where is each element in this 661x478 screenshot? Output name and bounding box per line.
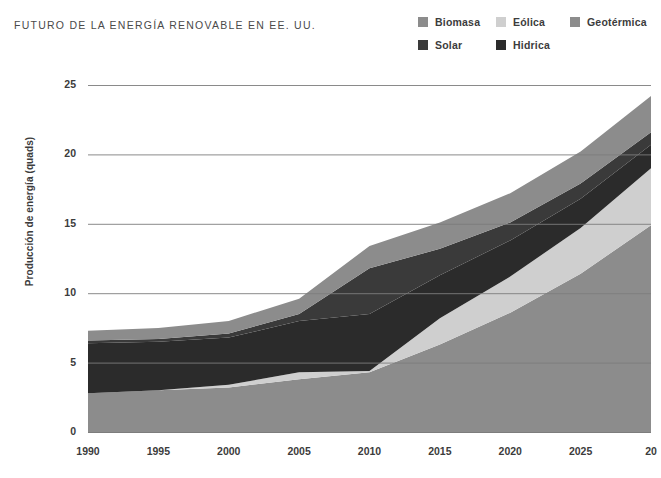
x-tick-label-1995: 1995 bbox=[134, 445, 182, 457]
y-tick-label-25: 25 bbox=[42, 78, 76, 90]
y-tick-label-10: 10 bbox=[42, 286, 76, 298]
y-tick-label-20: 20 bbox=[42, 147, 76, 159]
x-tick-label-1990: 1990 bbox=[64, 445, 112, 457]
area-series-group bbox=[88, 96, 651, 432]
x-tick-label-2010: 2010 bbox=[346, 445, 394, 457]
y-tick-label-0: 0 bbox=[42, 425, 76, 437]
x-tick-label-2025: 2025 bbox=[557, 445, 605, 457]
y-tick-label-15: 15 bbox=[42, 217, 76, 229]
x-tick-label-2015: 2015 bbox=[416, 445, 464, 457]
x-tick-label-2005: 2005 bbox=[275, 445, 323, 457]
y-axis-title: Producción de energía (quads) bbox=[24, 117, 35, 307]
x-tick-label-2000: 2000 bbox=[205, 445, 253, 457]
x-tick-label-2030: 20 bbox=[627, 445, 661, 457]
x-tick-label-2020: 2020 bbox=[486, 445, 534, 457]
y-tick-label-5: 5 bbox=[42, 356, 76, 368]
